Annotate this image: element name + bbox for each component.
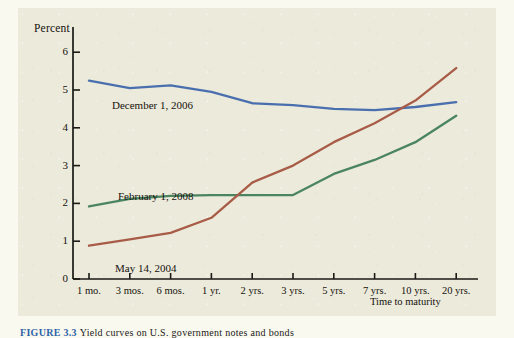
caption-text: Yield curves on U.S. government notes an… xyxy=(80,327,294,338)
axes-layer xyxy=(73,27,478,279)
series-annotation: May 14, 2004 xyxy=(115,262,176,274)
x-axis-title: Time to maturity xyxy=(370,296,441,307)
caption-number: FIGURE 3.3 xyxy=(20,327,77,338)
y-tick-label: 1 xyxy=(52,234,68,246)
series-line xyxy=(89,68,456,246)
y-tick-label: 0 xyxy=(52,272,68,284)
y-tick-label: 4 xyxy=(52,121,68,133)
series-annotation: December 1, 2006 xyxy=(112,99,193,111)
series-annotation: February 1, 2008 xyxy=(118,190,193,202)
figure-caption: FIGURE 3.3 Yield curves on U.S. governme… xyxy=(20,327,500,338)
x-tick-label: 20 yrs. xyxy=(430,285,482,296)
y-tick-label: 5 xyxy=(52,83,68,95)
y-tick-label: 3 xyxy=(52,159,68,171)
y-axis-title: Percent xyxy=(34,22,70,34)
y-tick-label: 6 xyxy=(52,45,68,57)
y-tick-label: 2 xyxy=(52,196,68,208)
series-layer xyxy=(89,68,456,246)
figure-root: Percent Time to maturity 0123456 1 mo.3 … xyxy=(0,0,514,338)
